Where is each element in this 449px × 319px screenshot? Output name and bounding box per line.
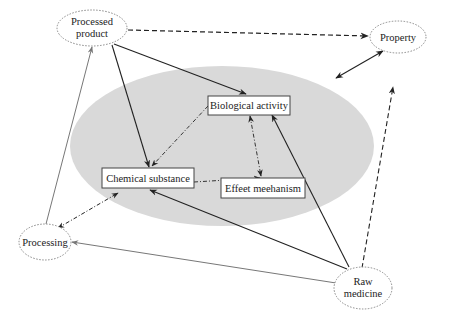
processed-product-line2: product [76,28,108,39]
raw-medicine-line1: Raw [353,276,373,287]
raw-medicine-line2: medicine [344,288,383,299]
processed-product-line1: Processed [71,16,114,27]
node-property: Property [370,21,426,53]
effect-mechanism-label: Effeet meehanism [225,183,301,194]
edge-raw-to-property [362,87,393,268]
diagram-canvas: Processed product Property Processing Ra… [0,0,449,319]
node-chemical-substance: Chemical substance [102,168,194,188]
node-raw-medicine: Raw medicine [334,267,392,309]
node-effect-mechanism: Effeet meehanism [221,178,305,198]
edge-processed-to-property [128,30,368,36]
node-biological-activity: Biological activity [208,96,290,115]
processing-label: Processing [22,237,68,248]
core-region [70,66,374,226]
property-label: Property [380,32,417,43]
edge-property-core [336,51,383,78]
node-processing: Processing [19,224,71,260]
chemical-substance-label: Chemical substance [106,173,190,184]
biological-activity-label: Biological activity [210,100,289,111]
node-processed-product: Processed product [57,10,127,46]
